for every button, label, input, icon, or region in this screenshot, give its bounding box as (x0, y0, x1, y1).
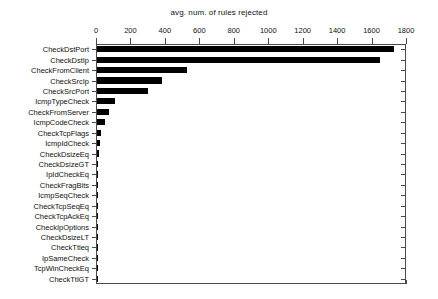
y-tick-mark-right (401, 206, 406, 207)
y-tick-mark (92, 174, 97, 175)
y-tick-mark (92, 70, 97, 71)
bar (97, 276, 98, 282)
bar (97, 109, 109, 115)
y-tick-mark-right (401, 154, 406, 155)
x-tick-label: 0 (94, 26, 98, 35)
x-tick-label: 800 (228, 26, 241, 35)
y-tick-label: CheckDsizeEq (40, 149, 89, 158)
y-tick-mark (92, 164, 97, 165)
y-tick-label: CheckTcpSeqEq (34, 201, 89, 210)
y-tick-label: CheckDsizeGT (39, 160, 89, 169)
y-tick-mark (92, 60, 97, 61)
y-tick-mark (92, 154, 97, 155)
y-tick-mark-right (401, 174, 406, 175)
y-tick-label: CheckDstIp (50, 55, 89, 64)
bar (97, 46, 394, 52)
y-tick-label: IcmpCodeCheck (34, 118, 89, 127)
y-tick-mark-right (401, 101, 406, 102)
y-tick-mark (92, 122, 97, 123)
y-tick-mark (92, 247, 97, 248)
y-tick-mark (92, 101, 97, 102)
y-tick-mark-right (401, 91, 406, 92)
bar (97, 244, 98, 250)
y-tick-mark-right (401, 49, 406, 50)
y-tick-label: CheckTtleq (51, 243, 89, 252)
y-tick-mark-right (401, 112, 406, 113)
y-tick-mark (92, 195, 97, 196)
y-tick-label: CheckFragBits (40, 180, 89, 189)
y-tick-mark (92, 143, 97, 144)
y-tick-mark (92, 216, 97, 217)
y-tick-mark (92, 185, 97, 186)
bar (97, 67, 187, 73)
bar (97, 57, 380, 63)
y-tick-mark-right (401, 227, 406, 228)
y-tick-mark (92, 258, 97, 259)
bar (97, 98, 115, 104)
y-tick-mark (92, 268, 97, 269)
bar (97, 213, 98, 219)
y-tick-mark-right (401, 279, 406, 280)
y-tick-mark-right (401, 195, 406, 196)
bar (97, 130, 101, 136)
y-tick-label: CheckTtlGT (49, 274, 89, 283)
y-tick-mark-right (401, 164, 406, 165)
y-tick-label: CheckFromServer (28, 107, 89, 116)
bar (97, 119, 105, 125)
x-tick-label: 1200 (294, 26, 311, 35)
bar (97, 192, 98, 198)
bar (97, 234, 98, 240)
x-tick-mark (406, 38, 407, 44)
x-tick-label: 1600 (363, 26, 380, 35)
bar (97, 150, 99, 156)
bar (97, 161, 98, 167)
bar (97, 265, 98, 271)
y-tick-mark (92, 49, 97, 50)
y-tick-mark (92, 227, 97, 228)
bar (97, 182, 98, 188)
y-tick-label: CheckSrcIp (50, 76, 89, 85)
y-tick-mark-right (401, 70, 406, 71)
y-tick-label: IpSameCheck (42, 253, 89, 262)
y-tick-label: IcmpTypeCheck (35, 97, 89, 106)
bar (97, 203, 98, 209)
y-tick-label: IpIdCheckEq (46, 170, 89, 179)
bar (97, 88, 148, 94)
y-tick-label: IcmpIdCheck (45, 139, 89, 148)
chart-title: avg. num. of rules rejected (0, 8, 438, 17)
bar (97, 140, 100, 146)
x-tick-label: 1800 (398, 26, 415, 35)
bar (97, 171, 98, 177)
y-tick-mark-right (401, 216, 406, 217)
y-tick-label: CheckDsizeLT (41, 233, 89, 242)
y-tick-mark-right (401, 60, 406, 61)
y-tick-mark (92, 279, 97, 280)
chart-figure: avg. num. of rules rejected 020040060080… (0, 0, 438, 299)
y-tick-label: IcmpSeqCheck (38, 191, 89, 200)
x-tick-label: 1400 (329, 26, 346, 35)
y-tick-mark (92, 81, 97, 82)
y-tick-mark (92, 91, 97, 92)
x-tick-label: 400 (159, 26, 172, 35)
y-tick-mark-right (401, 247, 406, 248)
y-tick-mark (92, 133, 97, 134)
y-tick-mark (92, 112, 97, 113)
y-tick-mark-right (401, 185, 406, 186)
y-tick-label: CheckSrcPort (43, 86, 89, 95)
x-tick-mark-bottom (406, 280, 407, 284)
y-tick-mark-right (401, 268, 406, 269)
y-tick-mark-right (401, 133, 406, 134)
x-tick-label: 200 (124, 26, 137, 35)
x-tick-label: 600 (193, 26, 206, 35)
y-tick-mark-right (401, 237, 406, 238)
y-tick-mark-right (401, 143, 406, 144)
y-tick-mark-right (401, 258, 406, 259)
y-tick-label: CheckDstPort (43, 45, 89, 54)
y-tick-mark (92, 237, 97, 238)
y-tick-label: TcpWinCheckEq (34, 264, 89, 273)
bar (97, 77, 162, 83)
y-tick-mark (92, 206, 97, 207)
x-tick-label: 1000 (260, 26, 277, 35)
y-tick-label: CheckFromClient (31, 66, 89, 75)
y-tick-label: CheckTcpAckEq (34, 212, 89, 221)
